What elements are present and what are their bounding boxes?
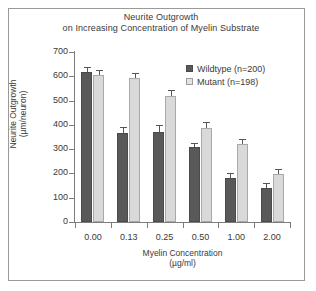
x-tick-label: 0.13 [109, 232, 149, 242]
error-bar-cap [96, 70, 103, 71]
error-bar-cap [120, 127, 127, 128]
chart-figure: Neurite Outgrowth on Increasing Concentr… [0, 0, 316, 291]
error-bar-cap [156, 125, 163, 126]
x-tick-label: 0.25 [145, 232, 185, 242]
error-bar-cap [263, 183, 270, 184]
bar-mutant [201, 128, 212, 222]
y-tick [69, 222, 74, 223]
error-bar [242, 140, 243, 144]
x-axis-title: Myelin Concentration (µg/ml) [75, 248, 290, 268]
error-bar [135, 74, 136, 78]
legend-label: Wildtype (n=200) [197, 64, 265, 74]
legend-swatch-mutant-icon [186, 78, 193, 85]
x-tick [111, 223, 112, 228]
y-tick [69, 125, 74, 126]
bar-mutant [165, 96, 176, 222]
bar-wildtype [153, 132, 164, 222]
error-bar [278, 170, 279, 174]
bar-wildtype [81, 72, 92, 222]
y-tick [69, 101, 74, 102]
x-tick-label: 0.50 [180, 232, 220, 242]
y-tick [69, 173, 74, 174]
x-tick [290, 223, 291, 228]
error-bar [87, 68, 88, 72]
legend-swatch-wildtype-icon [186, 65, 193, 72]
x-tick-label: 0.00 [73, 232, 113, 242]
error-bar-cap [239, 139, 246, 140]
x-tick-label: 2.00 [252, 232, 292, 242]
error-bar-cap [84, 67, 91, 68]
chart-title-line-1: Neurite Outgrowth [30, 12, 292, 23]
error-bar [123, 128, 124, 133]
x-tick-label: 1.00 [216, 232, 256, 242]
bar-mutant [93, 75, 104, 222]
x-tick [147, 223, 148, 228]
y-axis-title-line-1: Neurite Outgrowth [8, 59, 18, 169]
error-bar-cap [203, 122, 210, 123]
error-bar [230, 174, 231, 178]
bar-wildtype [189, 147, 200, 222]
error-bar-cap [168, 90, 175, 91]
y-tick [69, 52, 74, 53]
legend-item-wildtype: Wildtype (n=200) [186, 62, 265, 75]
bar-mutant [237, 144, 248, 222]
legend-item-mutant: Mutant (n=198) [186, 75, 265, 88]
y-tick-label: 500 [28, 95, 68, 105]
bar-mutant [273, 174, 284, 222]
y-tick-label: 100 [28, 192, 68, 202]
y-tick-label: 200 [28, 167, 68, 177]
bar-wildtype [225, 178, 236, 222]
y-tick-label: 300 [28, 143, 68, 153]
y-axis-title: Neurite Outgrowth (µm/neuron) [8, 59, 28, 169]
chart-legend: Wildtype (n=200)Mutant (n=198) [186, 62, 265, 88]
error-bar [206, 123, 207, 127]
bar-wildtype [117, 133, 128, 222]
chart-title-line-2: on Increasing Concentration of Myelin Su… [30, 23, 292, 34]
y-tick-label: 600 [28, 70, 68, 80]
bar-mutant [129, 78, 140, 222]
x-tick [218, 223, 219, 228]
y-tick [69, 149, 74, 150]
error-bar [194, 144, 195, 148]
x-tick [254, 223, 255, 228]
y-axis-title-line-2: (µm/neuron) [18, 59, 28, 169]
error-bar-cap [191, 143, 198, 144]
error-bar-cap [275, 169, 282, 170]
error-bar [266, 184, 267, 188]
x-tick [183, 223, 184, 228]
legend-label: Mutant (n=198) [197, 77, 258, 87]
chart-title: Neurite Outgrowth on Increasing Concentr… [30, 12, 292, 34]
error-bar-cap [227, 173, 234, 174]
bar-wildtype [261, 188, 272, 222]
error-bar-cap [132, 73, 139, 74]
error-bar [99, 71, 100, 75]
y-tick-label: 0 [28, 216, 68, 226]
x-tick [75, 223, 76, 228]
x-axis-title-line-1: Myelin Concentration [75, 248, 290, 258]
y-tick-label: 400 [28, 119, 68, 129]
y-tick [69, 76, 74, 77]
x-axis-title-line-2: (µg/ml) [75, 258, 290, 268]
error-bar [171, 91, 172, 96]
y-tick-label: 700 [28, 46, 68, 56]
error-bar [159, 126, 160, 131]
y-tick [69, 198, 74, 199]
